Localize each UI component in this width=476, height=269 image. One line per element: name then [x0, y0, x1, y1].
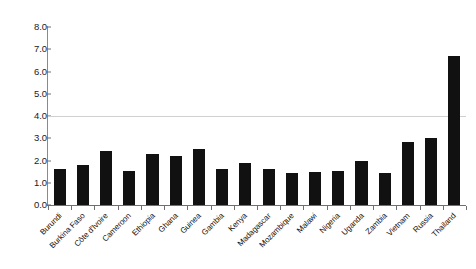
y-axis-tick-label: 2.0 [5, 156, 47, 166]
bar [100, 151, 112, 206]
x-axis-tick-mark [303, 206, 304, 210]
x-axis-tick-mark [94, 206, 95, 210]
y-axis-tick-label: 3.0 [5, 134, 47, 144]
x-axis-tick-label: Vietnam [386, 212, 412, 238]
x-axis-tick-mark [164, 206, 165, 210]
x-axis-tick-mark [466, 206, 467, 210]
x-axis-tick-mark [327, 206, 328, 210]
x-axis-tick-label: Guinea [179, 212, 202, 235]
x-axis-tick-mark [48, 206, 49, 210]
bar [193, 149, 205, 205]
x-axis-tick-mark [234, 206, 235, 210]
bar [239, 163, 251, 205]
y-axis-tick-label: 4.0 [5, 111, 47, 121]
bar [54, 169, 66, 205]
x-axis-tick-mark [257, 206, 258, 210]
y-axis-tick-label: 1.0 [5, 178, 47, 188]
x-axis-tick-label: Ethiopia [131, 212, 157, 238]
plot-area [48, 27, 466, 205]
bar [448, 56, 460, 205]
x-axis-tick-mark [187, 206, 188, 210]
bar [216, 169, 228, 205]
x-axis-tick-mark [280, 206, 281, 210]
x-axis-tick-mark [118, 206, 119, 210]
x-axis-tick-mark [373, 206, 374, 210]
bar [77, 165, 89, 205]
bar [355, 161, 367, 206]
bar [425, 138, 437, 205]
bar [332, 171, 344, 205]
x-axis-tick-mark [71, 206, 72, 210]
x-axis-tick-mark [396, 206, 397, 210]
bar [263, 169, 275, 205]
x-axis-tick-mark [420, 206, 421, 210]
x-axis-tick-mark [141, 206, 142, 210]
y-axis-tick-label: 7.0 [5, 45, 47, 55]
x-axis-tick-label: Malawi [296, 212, 319, 235]
x-axis-tick-mark [211, 206, 212, 210]
bar [379, 173, 391, 205]
x-axis-tick-label: Uganda [340, 212, 365, 237]
x-axis-tick-label: Ghana [157, 212, 179, 234]
bar [309, 172, 321, 205]
x-axis-tick-label: Gambia [201, 212, 226, 237]
bar [170, 156, 182, 205]
x-axis-tick-mark [443, 206, 444, 210]
bar-chart: 0.01.02.03.04.05.06.07.08.0 BurundiBurki… [0, 0, 476, 269]
bar [286, 173, 298, 205]
bar [402, 142, 414, 205]
x-axis-tick-label: Zambia [364, 212, 388, 236]
bar [123, 171, 135, 205]
y-axis-tick-label: 6.0 [5, 67, 47, 77]
y-axis-tick-label: 0.0 [5, 200, 47, 210]
x-axis-tick-label: Nigeria [319, 212, 342, 235]
x-axis-tick-label: Thailand [431, 212, 458, 239]
x-axis-tick-mark [350, 206, 351, 210]
gridline [48, 116, 466, 117]
y-axis-tick-label: 8.0 [5, 22, 47, 32]
bar [146, 154, 158, 205]
y-axis-tick-label: 5.0 [5, 89, 47, 99]
